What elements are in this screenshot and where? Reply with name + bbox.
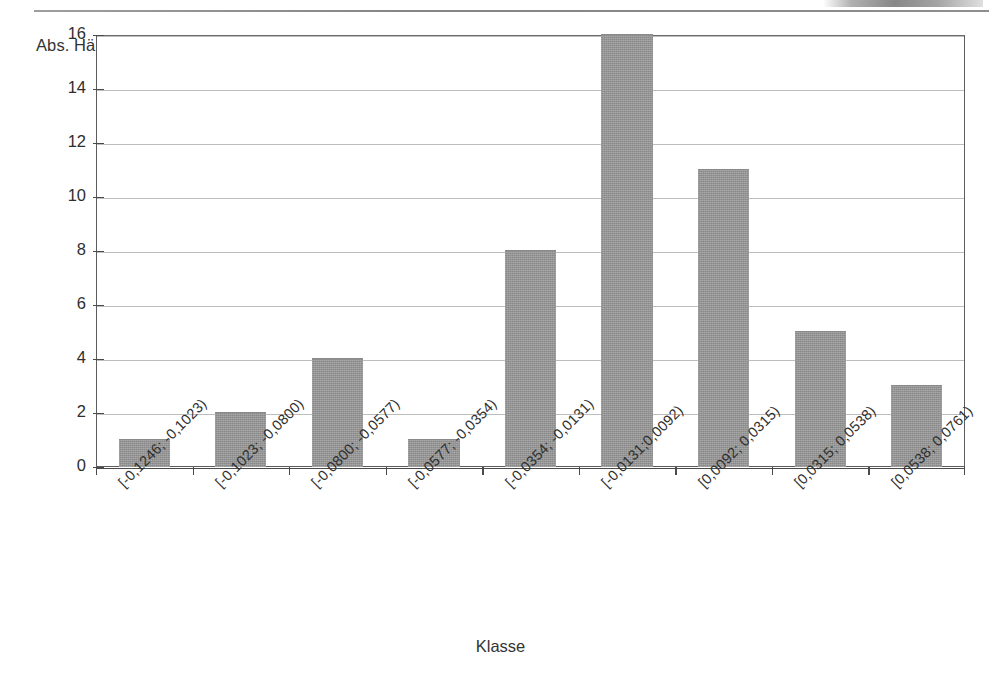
x-axis-category-labels: [-0,1246; -0,1023)[-0,1023; -0,0800)[-0,… <box>96 467 965 617</box>
y-tick-label: 14 <box>68 78 86 97</box>
y-tick-label: 8 <box>77 240 86 259</box>
y-tick-label: 12 <box>68 132 86 151</box>
bar <box>601 34 652 467</box>
histogram-figure: Abs. Häufigkeit 0246810121416 [-0,1246; … <box>0 0 1001 685</box>
y-tick-label: 4 <box>77 348 86 367</box>
y-tick-label: 6 <box>77 294 86 313</box>
x-axis-title: Klasse <box>0 637 1001 656</box>
bar-series <box>96 35 965 467</box>
y-tick-label: 0 <box>77 456 86 475</box>
y-tick-label: 2 <box>77 402 86 421</box>
y-tick-label: 10 <box>68 186 86 205</box>
bar <box>698 169 749 467</box>
